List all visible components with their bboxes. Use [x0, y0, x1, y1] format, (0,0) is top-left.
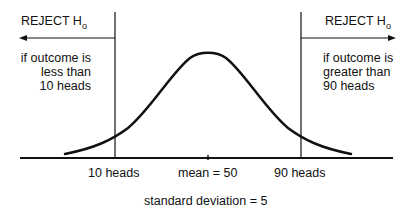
right-description-line: greater than [323, 65, 393, 79]
normal-distribution-curve [65, 53, 351, 154]
right-reject-heading: REJECT Ho [325, 14, 391, 29]
left-reject-description: if outcome is less than 10 heads [21, 51, 91, 93]
left-description-line: 10 heads [21, 79, 91, 93]
mean-label: mean = 50 [178, 166, 237, 180]
left-reject-subscript: o [82, 21, 87, 31]
left-arrowhead-icon [19, 35, 27, 41]
right-reject-description: if outcome is greater than 90 heads [323, 51, 393, 93]
right-reject-text: REJECT H [325, 14, 386, 28]
right-arrowhead-icon [388, 35, 396, 41]
left-description-line: less than [21, 65, 91, 79]
standard-deviation-label: standard deviation = 5 [144, 194, 267, 208]
right-description-line: 90 heads [323, 79, 393, 93]
right-reject-subscript: o [386, 21, 391, 31]
right-description-line: if outcome is [323, 51, 393, 65]
left-reject-heading: REJECT Ho [21, 14, 87, 29]
left-cutoff-label: 10 heads [88, 166, 139, 180]
diagram-canvas [0, 0, 413, 215]
right-cutoff-label: 90 heads [274, 166, 325, 180]
left-description-line: if outcome is [21, 51, 91, 65]
left-reject-text: REJECT H [21, 14, 82, 28]
